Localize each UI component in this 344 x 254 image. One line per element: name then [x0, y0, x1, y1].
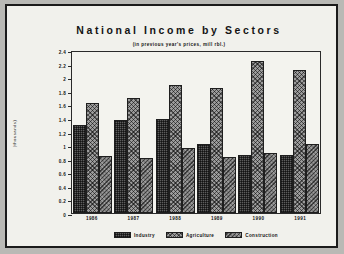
y-axis-tick-label: 0.6: [59, 172, 66, 177]
y-axis-tick-label: 2.4: [59, 50, 66, 55]
chart-frame: (thousands) National Income by Sectors (…: [5, 4, 338, 248]
bar-industry-1991[interactable]: [280, 155, 293, 213]
bar-group: [238, 52, 277, 213]
bar-industry-1986[interactable]: [73, 125, 86, 213]
y-axis-tick-label: 2.2: [59, 63, 66, 68]
legend-label: Construction: [245, 233, 278, 238]
x-axis-tick-label: 1991: [279, 216, 321, 226]
y-axis-tick-label: 1: [63, 145, 66, 150]
legend-item-industry[interactable]: Industry: [114, 232, 155, 238]
plot-area: 00.20.40.60.811.21.41.61.822.22.4: [71, 51, 321, 214]
bar-agriculture-1989[interactable]: [210, 88, 223, 213]
bar-construction-1988[interactable]: [182, 148, 195, 213]
x-axis-tick-label: 1989: [196, 216, 238, 226]
chart-legend: IndustryAgricultureConstruction: [71, 230, 321, 240]
bar-agriculture-1988[interactable]: [169, 85, 182, 213]
chart-subtitle: (in previous year's prices, mill rbl.): [7, 42, 344, 47]
y-axis-tick-label: 2: [63, 77, 66, 82]
y-axis-tick-label: 0: [63, 213, 66, 218]
bar-group: [114, 52, 153, 213]
bar-industry-1988[interactable]: [156, 119, 169, 213]
y-axis-tick-label: 0.4: [59, 185, 66, 190]
legend-label: Agriculture: [186, 233, 214, 238]
bar-agriculture-1987[interactable]: [127, 98, 140, 213]
bar-groups: [72, 52, 320, 213]
bar-industry-1987[interactable]: [114, 120, 127, 213]
x-axis-tick-label: 1990: [238, 216, 280, 226]
bar-construction-1989[interactable]: [223, 157, 236, 213]
x-axis-labels: 198619871988198919901991: [71, 216, 321, 226]
legend-swatch-industry: [114, 232, 131, 238]
bar-construction-1987[interactable]: [140, 158, 153, 213]
y-axis-tick-label: 1.6: [59, 104, 66, 109]
x-axis-tick-label: 1988: [154, 216, 196, 226]
y-axis-label-text: (thousands): [13, 119, 18, 147]
x-axis-tick-label: 1986: [71, 216, 113, 226]
y-axis-tick-label: 0.2: [59, 199, 66, 204]
y-axis-label: (thousands): [9, 102, 21, 164]
y-axis-tick-label: 0.8: [59, 158, 66, 163]
legend-swatch-construction: [225, 232, 242, 238]
legend-item-construction[interactable]: Construction: [225, 232, 278, 238]
y-axis-tick-label: 1.8: [59, 90, 66, 95]
bar-agriculture-1986[interactable]: [86, 103, 99, 213]
bar-construction-1990[interactable]: [264, 153, 277, 213]
bar-group: [197, 52, 236, 213]
y-axis-tick-label: 1.2: [59, 131, 66, 136]
bar-agriculture-1990[interactable]: [251, 61, 264, 213]
legend-swatch-agriculture: [166, 232, 183, 238]
bar-industry-1989[interactable]: [197, 144, 210, 213]
bar-construction-1986[interactable]: [99, 156, 112, 213]
x-axis-tick-label: 1987: [113, 216, 155, 226]
legend-label: Industry: [134, 233, 155, 238]
bar-industry-1990[interactable]: [238, 155, 251, 213]
chart-title: National Income by Sectors: [7, 24, 344, 36]
legend-item-agriculture[interactable]: Agriculture: [166, 232, 214, 238]
bar-group: [73, 52, 112, 213]
bar-group: [280, 52, 319, 213]
bar-group: [156, 52, 195, 213]
bar-construction-1991[interactable]: [306, 144, 319, 213]
bar-agriculture-1991[interactable]: [293, 70, 306, 213]
y-axis-tick-label: 1.4: [59, 117, 66, 122]
